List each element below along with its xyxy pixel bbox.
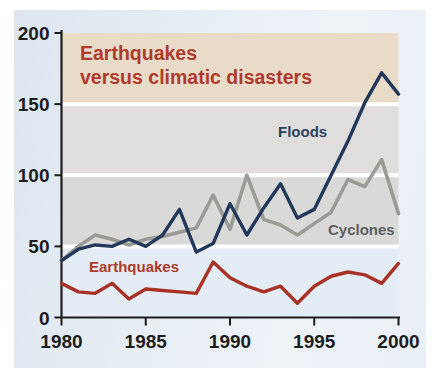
x-tick-label-1985: 1985	[125, 331, 168, 352]
y-tick-label-50: 50	[28, 236, 49, 257]
x-tick-label-1980: 1980	[40, 331, 82, 352]
x-tick-label-2000: 2000	[377, 331, 419, 352]
plot-area: 050100150200 19801985199019952000 Earthq…	[0, 0, 439, 380]
series-label-floods: Floods	[278, 123, 327, 140]
chart-title-line2: versus climatic disasters	[80, 66, 312, 88]
chart-figure: 050100150200 19801985199019952000 Earthq…	[0, 0, 439, 380]
series-label-earthquakes: Earthquakes	[89, 258, 179, 275]
x-tick-label-1995: 1995	[293, 331, 336, 352]
chart-title-line1: Earthquakes	[80, 42, 197, 64]
x-axis-ticks	[62, 318, 399, 326]
x-axis-tick-labels: 19801985199019952000	[40, 331, 419, 352]
y-tick-label-150: 150	[18, 94, 50, 115]
x-tick-label-1990: 1990	[209, 331, 251, 352]
series-label-cyclones: Cyclones	[328, 221, 395, 238]
y-axis-tick-labels: 050100150200	[18, 23, 50, 329]
y-tick-label-100: 100	[18, 165, 50, 186]
chart-svg: 050100150200 19801985199019952000 Earthq…	[0, 0, 439, 380]
y-tick-label-200: 200	[18, 23, 50, 44]
y-tick-label-0: 0	[39, 308, 50, 329]
